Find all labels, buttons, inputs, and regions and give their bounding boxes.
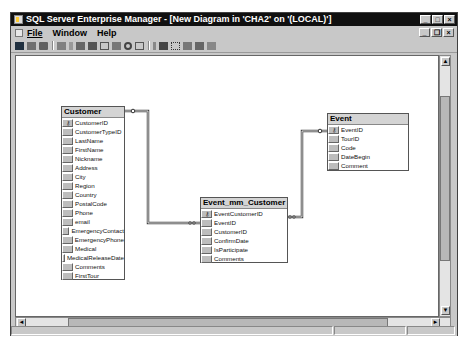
- menu-window[interactable]: Window: [53, 28, 87, 38]
- diagram-canvas[interactable]: Customer ⚷CustomerID CustomerTypeID Last…: [15, 55, 439, 317]
- column-row[interactable]: DateBegin: [328, 152, 408, 161]
- key-icon: ⚷: [328, 126, 339, 134]
- column-row[interactable]: ⚷CustomerID: [62, 118, 124, 127]
- column-row[interactable]: CustomerID: [201, 227, 287, 236]
- toolbar-separator: [52, 41, 54, 50]
- add-table-icon[interactable]: [100, 42, 109, 50]
- row-selector: [328, 162, 339, 170]
- column-row[interactable]: EmergencyContact: [62, 226, 124, 235]
- title-bar[interactable]: SQL Server Enterprise Manager - [New Dia…: [11, 13, 457, 26]
- column-row[interactable]: IsParticipate: [201, 245, 287, 254]
- column-row[interactable]: Comments: [62, 262, 124, 271]
- column-row[interactable]: FirstTour: [62, 271, 124, 280]
- status-pane-3: [407, 326, 455, 335]
- text-annotation-icon[interactable]: [207, 42, 216, 50]
- show-icon[interactable]: [135, 42, 144, 50]
- minimize-button[interactable]: _: [420, 15, 431, 24]
- row-selector: [62, 137, 73, 145]
- row-selector: [62, 182, 73, 190]
- column-row[interactable]: Country: [62, 190, 124, 199]
- table-title: Customer: [62, 107, 124, 118]
- row-selector: [62, 155, 73, 163]
- print-icon[interactable]: [39, 42, 48, 50]
- mdi-restore-button[interactable]: ❐: [431, 28, 442, 37]
- menu-file[interactable]: File: [27, 28, 43, 38]
- menu-help[interactable]: Help: [97, 28, 117, 38]
- status-pane-2: [334, 326, 406, 335]
- table-event[interactable]: Event ⚷EventID TourID Code DateBegin Com…: [327, 113, 409, 171]
- column-row[interactable]: TourID: [328, 134, 408, 143]
- document-icon[interactable]: [15, 29, 23, 37]
- column-row[interactable]: MedicalReleaseDate: [62, 253, 124, 262]
- cut-icon[interactable]: [69, 42, 73, 50]
- close-button[interactable]: ×: [444, 15, 455, 24]
- column-row[interactable]: Medical: [62, 244, 124, 253]
- column-row[interactable]: City: [62, 172, 124, 181]
- table-title: Event: [328, 114, 408, 125]
- toolbar: [11, 39, 457, 53]
- column-row[interactable]: Address: [62, 163, 124, 172]
- column-row[interactable]: EventID: [201, 218, 287, 227]
- column-row[interactable]: Comment: [328, 161, 408, 170]
- row-selector: [62, 200, 73, 208]
- column-row[interactable]: LastName: [62, 136, 124, 145]
- column-row[interactable]: PostalCode: [62, 199, 124, 208]
- properties-icon[interactable]: [27, 42, 36, 50]
- arrange-selection-icon[interactable]: [183, 42, 192, 50]
- table-columns: ⚷EventCustomerID EventID CustomerID Conf…: [201, 209, 287, 263]
- key-icon: ⚷: [201, 210, 212, 218]
- app-icon: [14, 15, 23, 24]
- zoom-icon[interactable]: [124, 42, 132, 50]
- column-row[interactable]: email: [62, 217, 124, 226]
- arrange-tables-icon[interactable]: [171, 42, 180, 50]
- row-selector: [201, 219, 212, 227]
- column-row[interactable]: ConfirmDate: [201, 236, 287, 245]
- copy-icon[interactable]: [76, 42, 85, 50]
- vertical-scrollbar[interactable]: ▲ ▼: [439, 55, 451, 317]
- paste-icon[interactable]: [88, 42, 97, 50]
- column-row[interactable]: Code: [328, 143, 408, 152]
- autosize-icon[interactable]: [195, 42, 204, 50]
- vertical-scroll-thumb[interactable]: [440, 96, 450, 261]
- column-row[interactable]: Region: [62, 181, 124, 190]
- relationship-icon[interactable]: [112, 42, 121, 50]
- status-bar: [11, 326, 457, 336]
- mdi-close-button[interactable]: ×: [443, 28, 454, 37]
- maximize-button[interactable]: □: [432, 15, 443, 24]
- row-selector: [62, 245, 73, 253]
- table-columns: ⚷CustomerID CustomerTypeID LastName Firs…: [62, 118, 124, 280]
- enterprise-manager-window: SQL Server Enterprise Manager - [New Dia…: [10, 12, 458, 336]
- column-row[interactable]: Comments: [201, 254, 287, 263]
- row-selector: [62, 254, 65, 262]
- scroll-up-button[interactable]: ▲: [441, 57, 450, 66]
- column-row[interactable]: Nickname: [62, 154, 124, 163]
- column-row[interactable]: CustomerTypeID: [62, 127, 124, 136]
- key-icon[interactable]: [153, 42, 156, 50]
- window-title: SQL Server Enterprise Manager - [New Dia…: [26, 13, 420, 26]
- row-selector: [62, 209, 73, 217]
- scroll-down-button[interactable]: ▼: [441, 306, 450, 315]
- table-customer[interactable]: Customer ⚷CustomerID CustomerTypeID Last…: [61, 106, 125, 280]
- save-icon[interactable]: [15, 42, 24, 50]
- relationship-event-event-mm-customer[interactable]: [286, 129, 327, 218]
- column-row[interactable]: ⚷EventID: [328, 125, 408, 134]
- row-selector: [62, 128, 73, 136]
- column-row[interactable]: EmergencyPhone: [62, 235, 124, 244]
- row-selector: [62, 263, 73, 271]
- new-table-icon[interactable]: [57, 42, 66, 50]
- menu-bar: File Window Help _ ❐ ×: [11, 26, 457, 39]
- key-icon: ⚷: [62, 119, 73, 127]
- row-selector: [201, 246, 212, 254]
- table-columns: ⚷EventID TourID Code DateBegin Comment: [328, 125, 408, 170]
- column-row[interactable]: ⚷EventCustomerID: [201, 209, 287, 218]
- relationship-customer-event-mm-customer[interactable]: [125, 109, 200, 224]
- row-selector: [62, 191, 73, 199]
- status-pane-main: [11, 326, 333, 335]
- indexes-icon[interactable]: [159, 42, 168, 50]
- row-selector: [62, 227, 69, 235]
- row-selector: [328, 153, 339, 161]
- table-event-mm-customer[interactable]: Event_mm_Customer ⚷EventCustomerID Event…: [200, 197, 288, 263]
- column-row[interactable]: Phone: [62, 208, 124, 217]
- mdi-minimize-button[interactable]: _: [419, 28, 430, 37]
- column-row[interactable]: FirstName: [62, 145, 124, 154]
